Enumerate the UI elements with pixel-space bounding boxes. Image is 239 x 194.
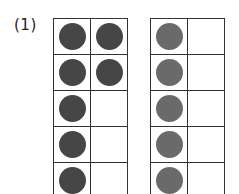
counter-dot-icon: [96, 59, 123, 86]
filled-cell: [151, 127, 188, 163]
counter-dot-icon: [156, 59, 183, 86]
counter-dot-icon: [156, 167, 183, 194]
filled-cell: [54, 55, 91, 91]
counter-dot-icon: [156, 95, 183, 122]
empty-cell: [91, 127, 128, 163]
filled-cell: [54, 127, 91, 163]
ten-frame-right: [150, 18, 225, 194]
counter-dot-icon: [59, 59, 86, 86]
empty-cell: [91, 91, 128, 127]
filled-cell: [151, 19, 188, 55]
filled-cell: [54, 91, 91, 127]
filled-cell: [91, 55, 128, 91]
counter-dot-icon: [156, 23, 183, 50]
counter-dot-icon: [59, 23, 86, 50]
problem-number: (1): [14, 16, 37, 34]
empty-cell: [188, 91, 225, 127]
filled-cell: [151, 55, 188, 91]
filled-cell: [54, 19, 91, 55]
empty-cell: [188, 163, 225, 194]
empty-cell: [188, 55, 225, 91]
counter-dot-icon: [59, 95, 86, 122]
filled-cell: [151, 91, 188, 127]
filled-cell: [54, 163, 91, 194]
empty-cell: [188, 127, 225, 163]
filled-cell: [151, 163, 188, 194]
counter-dot-icon: [59, 131, 86, 158]
counter-dot-icon: [156, 131, 183, 158]
empty-cell: [91, 163, 128, 194]
counter-dot-icon: [59, 167, 86, 194]
empty-cell: [188, 19, 225, 55]
ten-frame-left: [53, 18, 128, 194]
filled-cell: [91, 19, 128, 55]
counter-dot-icon: [96, 23, 123, 50]
